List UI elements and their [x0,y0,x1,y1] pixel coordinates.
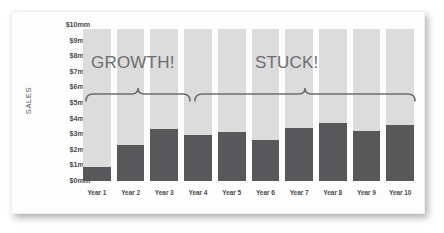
plot-area: SALES $10mm $9mm $8mm $7mm $6mm $5mm $4m… [12,12,424,213]
bar-fill [285,128,313,181]
bar-fill [150,129,178,181]
bar-fill [319,123,347,181]
bar-fill [83,167,111,181]
x-tick-label: Year 1 [83,189,111,196]
x-axis: Year 1Year 2Year 3Year 4Year 5Year 6Year… [83,189,414,196]
bar-column [285,29,313,181]
x-tick-label: Year 8 [319,189,347,196]
x-tick-label: Year 6 [252,189,280,196]
bar-column [319,29,347,181]
bar-column [252,29,280,181]
bar-columns [83,29,414,181]
chart-card: SALES $10mm $9mm $8mm $7mm $6mm $5mm $4m… [11,11,425,214]
bar-fill [117,145,145,181]
x-tick-label: Year 5 [218,189,246,196]
bar-column [83,29,111,181]
bar-column [353,29,381,181]
x-tick-label: Year 4 [184,189,212,196]
bar-column [117,29,145,181]
chart-screenshot: SALES $10mm $9mm $8mm $7mm $6mm $5mm $4m… [0,0,444,233]
bar-fill [353,131,381,181]
bar-fill [252,140,280,181]
y-tick-label: $10mm [46,21,90,29]
x-tick-label: Year 9 [353,189,381,196]
x-tick-label: Year 7 [285,189,313,196]
y-axis-title: SALES [24,78,33,124]
bar-fill [386,125,414,181]
bar-fill [218,132,246,181]
x-tick-label: Year 2 [117,189,145,196]
bar-column [218,29,246,181]
bar-column [150,29,178,181]
bar-column [386,29,414,181]
bar-fill [184,135,212,181]
x-tick-label: Year 3 [150,189,178,196]
bar-column [184,29,212,181]
x-tick-label: Year 10 [386,189,414,196]
